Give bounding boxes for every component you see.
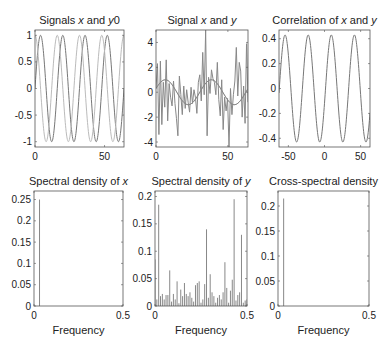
y-tick-label: 0.5 [18,56,32,67]
y-tick-label: 0.1 [138,246,152,257]
y-tick-label: -4 [144,137,153,148]
axes-box [278,191,369,306]
axes-box [279,30,370,147]
y-tick-label: 0.15 [256,226,276,237]
series-line-y [156,30,248,147]
y-tick-label: -2 [144,112,153,123]
figure-canvas: Signals x and y0-1-0.500.51050 Signal x … [0,0,386,349]
y-tick-label: 4 [147,37,153,48]
plot-area [155,199,247,306]
x-tick-label: 0 [153,151,159,162]
y-tick-label: 0.2 [261,201,275,212]
subplot-correlation: Correlation of x and y-0.4-0.200.20.4-50… [259,14,379,162]
x-tick-label: 0 [32,151,38,162]
x-axis-label: Frequency [53,324,105,336]
y-tick-label: 0.05 [12,279,32,290]
axes-box [155,191,247,306]
y-tick-label: -0.2 [259,108,277,119]
y-tick-label: 0.05 [133,273,153,284]
y-tick-label: 0.1 [17,258,31,269]
y-tick-label: 0 [26,83,32,94]
y-tick-label: 0 [147,87,153,98]
subplot-signals-x-y0: Signals x and y0-1-0.500.51050 [15,14,124,162]
y-tick-label: -0.4 [259,133,277,144]
x-tick-label: 0 [275,310,281,321]
x-tick-label: 50 [355,151,367,162]
y-tick-label: 0.2 [138,191,152,202]
subplot-cross-spectral-density: Cross-spectral density00.050.10.150.200.… [256,175,379,336]
y-tick-label: 0.25 [12,194,32,205]
x-tick-label: 0 [152,310,158,321]
plot-area [279,35,370,142]
x-tick-label: -50 [281,151,296,162]
y-tick-label: 0.1 [261,251,275,262]
x-tick-label: 0 [31,310,37,321]
y-tick-label: 2 [147,62,153,73]
series-line-x [35,35,124,141]
x-tick-label: 50 [222,151,234,162]
subplot-title: Cross-spectral density [269,175,378,187]
subplot-spectral-density-x: Spectral density of x00.050.10.150.20.25… [12,175,131,336]
y-tick-label: 0.2 [262,58,276,69]
plot-area [156,30,248,147]
axes-box [34,191,123,306]
subplot-title: Spectral density of y [151,175,252,187]
x-tick-label: 50 [99,151,111,162]
x-axis-label: Frequency [175,324,227,336]
x-tick-label: 0.5 [116,310,130,321]
y-tick-label: -1 [23,136,32,147]
subplot-signal-x-y: Signal x and y-4-2024050 [144,14,248,162]
series-line-xcorr [279,35,370,142]
subplot-title: Correlation of x and y [272,14,378,26]
y-tick-label: 0.05 [256,276,276,287]
y-tick-label: 0.2 [17,215,31,226]
plot-area [35,35,124,141]
y-tick-label: 1 [26,30,32,41]
y-tick-label: 0.15 [12,237,32,248]
x-tick-label: 0 [322,151,328,162]
x-tick-label: 0.5 [362,310,376,321]
subplot-title: Signals x and y0 [39,14,120,26]
y-tick-label: -0.5 [15,110,33,121]
y-tick-label: 0.15 [133,218,153,229]
x-axis-label: Frequency [298,324,350,336]
subplot-spectral-density-y: Spectral density of y00.050.10.150.200.5… [133,175,255,336]
y-tick-label: 0 [270,83,276,94]
y-tick-label: 0.4 [262,33,276,44]
subplot-title: Signal x and y [167,14,238,26]
subplot-title: Spectral density of x [29,175,129,187]
x-tick-label: 0.5 [240,310,254,321]
